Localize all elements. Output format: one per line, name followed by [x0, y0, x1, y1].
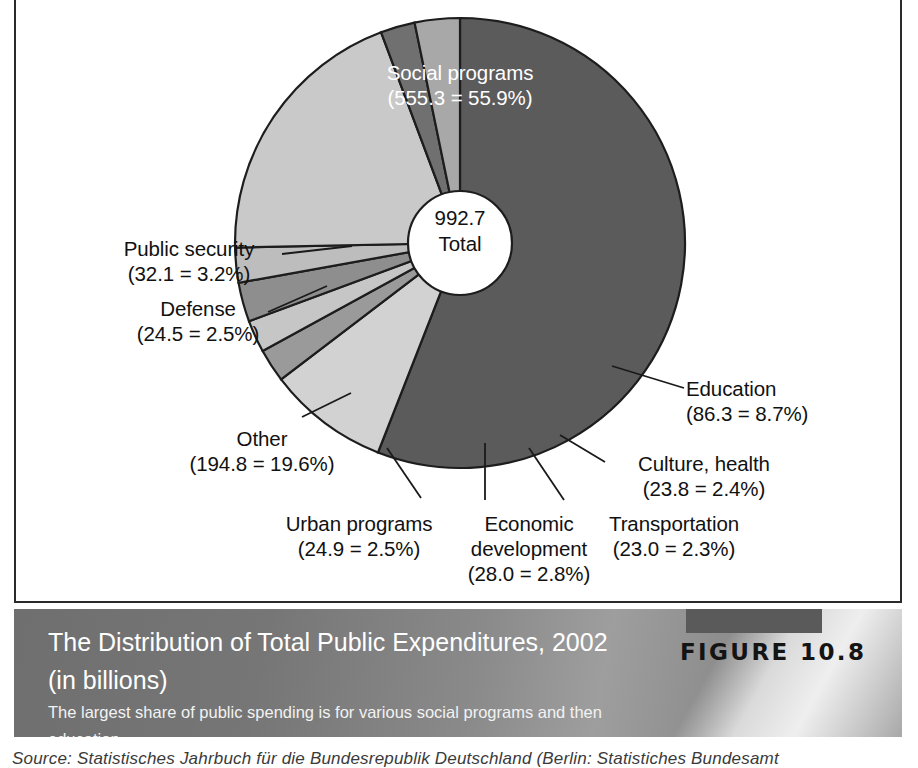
label-transportation: Transportation (23.0 = 2.3%) — [576, 511, 772, 561]
figure-caption-subtitle: The largest share of public spending is … — [48, 699, 708, 737]
label-culture-health-value: (23.8 = 2.4%) — [604, 476, 804, 501]
source-note: Source: Statistisches Jahrbuch für die B… — [12, 748, 908, 768]
figure-number-badge: FIGURE 10.8 — [680, 639, 890, 665]
label-public-security-name: Public security — [124, 237, 255, 260]
figure-caption-subtitle-line1: The largest share of public spending is … — [48, 699, 708, 726]
label-defense: Defense (24.5 = 2.5%) — [96, 296, 300, 346]
source-text: Statistisches Jahrbuch für die Bundesrep… — [77, 749, 779, 768]
label-urban-programs-value: (24.9 = 2.5%) — [256, 536, 462, 561]
label-defense-name: Defense — [160, 297, 236, 320]
label-transportation-value: (23.0 = 2.3%) — [576, 536, 772, 561]
label-culture-health: Culture, health (23.8 = 2.4%) — [604, 451, 804, 501]
leader-line-culture — [560, 435, 605, 462]
figure-caption-title: The Distribution of Total Public Expendi… — [48, 623, 688, 699]
figure-caption-band: The Distribution of Total Public Expendi… — [14, 609, 902, 737]
figure-badge-bar — [686, 609, 822, 633]
label-other-name: Other — [237, 427, 288, 450]
label-culture-health-name: Culture, health — [638, 452, 770, 475]
label-other: Other (194.8 = 19.6%) — [156, 426, 368, 476]
label-public-security: Public security (32.1 = 3.2%) — [78, 236, 300, 286]
label-economic-development-value: (28.0 = 2.8%) — [446, 561, 612, 586]
label-defense-value: (24.5 = 2.5%) — [96, 321, 300, 346]
label-education-name: Education — [686, 377, 776, 400]
center-total: 992.7 Total — [360, 205, 560, 257]
figure-caption-subtitle-line2: education. — [48, 726, 708, 737]
label-transportation-name: Transportation — [609, 512, 739, 535]
label-social-programs: Social programs (555.3 = 55.9%) — [260, 60, 660, 110]
center-total-label: Total — [360, 231, 560, 257]
label-public-security-value: (32.1 = 3.2%) — [78, 261, 300, 286]
label-urban-programs-name: Urban programs — [286, 512, 433, 535]
label-education: Education (86.3 = 8.7%) — [686, 376, 906, 426]
pie-chart: Social programs (555.3 = 55.9%) 992.7 To… — [0, 0, 918, 605]
leader-line-transportation — [529, 448, 564, 500]
figure-caption-title-line1: The Distribution of Total Public Expendi… — [48, 623, 688, 661]
label-social-programs-name: Social programs — [387, 61, 534, 84]
source-label: Source: — [12, 749, 72, 768]
center-total-value: 992.7 — [435, 206, 486, 229]
label-social-programs-value: (555.3 = 55.9%) — [260, 85, 660, 110]
figure-caption-title-line2: (in billions) — [48, 661, 688, 699]
label-urban-programs: Urban programs (24.9 = 2.5%) — [256, 511, 462, 561]
label-other-value: (194.8 = 19.6%) — [156, 451, 368, 476]
label-economic-development-name: Economic — [484, 512, 573, 535]
label-education-value: (86.3 = 8.7%) — [686, 401, 906, 426]
